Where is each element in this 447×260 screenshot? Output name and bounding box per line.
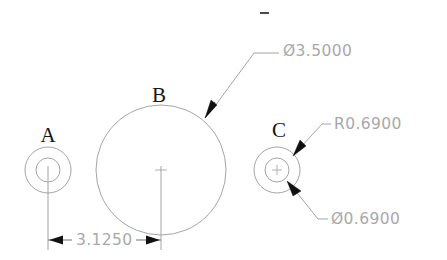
callout-label-radius-0-6900: R0.6900 (334, 115, 402, 133)
leader-arrowhead-radius-0-6900 (293, 140, 306, 156)
callout-diameter-3-5000-group: Ø3.5000 (205, 42, 352, 119)
feature-label-b: B (152, 83, 166, 107)
dimension-value-label: 3.1250 (76, 231, 133, 249)
leader-arrowhead-diameter-0-6900 (287, 181, 301, 196)
callout-label-diameter-0-6900: Ø0.6900 (331, 210, 400, 228)
dimension-arrow-left (49, 236, 63, 245)
callout-radius-0-6900-group: R0.6900 (293, 115, 402, 157)
leader-line-diameter-3-5000 (212, 53, 279, 110)
feature-label-a: A (40, 123, 56, 147)
top-tick-mark (260, 12, 269, 14)
engineering-drawing-canvas: 3.1250 Ø3.5000 R0.6900 Ø0.6900 A B C (0, 0, 447, 260)
leader-arrowhead-diameter-3-5000-fill (205, 100, 217, 118)
leader-line-diameter-0-6900 (294, 189, 328, 219)
callout-diameter-0-6900-group: Ø0.6900 (287, 181, 400, 228)
drawing-viewport: 3.1250 Ø3.5000 R0.6900 Ø0.6900 A B C (0, 0, 447, 260)
feature-label-c: C (272, 118, 286, 142)
dimension-arrow-right (146, 236, 160, 245)
callout-label-diameter-3-5000: Ø3.5000 (283, 42, 352, 60)
